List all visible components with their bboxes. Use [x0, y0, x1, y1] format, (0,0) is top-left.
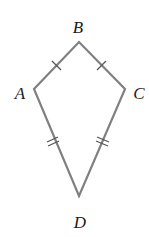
vertex-label-a: A: [14, 84, 26, 103]
vertex-label-b: B: [73, 18, 84, 37]
vertex-label-d: D: [73, 213, 87, 232]
kite-diagram: B A C D: [0, 0, 149, 237]
kite-outline: [34, 42, 125, 196]
vertex-label-c: C: [133, 84, 145, 103]
